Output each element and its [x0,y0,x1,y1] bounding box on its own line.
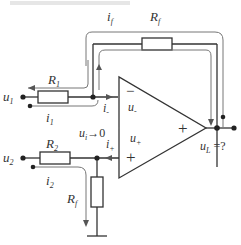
arrow-down-i2 [83,220,89,227]
node-i1-start [28,104,33,109]
label-i-minus: i- [103,101,109,117]
label-uL: uL =? [200,139,226,155]
node-u1 [20,94,25,99]
label-rf-top: Rf [149,9,162,26]
resistor-r2 [40,152,70,164]
resistor-r1 [38,91,68,103]
node-inverting-junction [90,94,95,99]
minus-sign: − [126,83,134,99]
node-output-junction [214,125,220,131]
op-amp-circuit-diagram: if Rf R1 u1 i1 i- − u- ui→0 i+ u+ + + u2… [0,0,241,245]
node-noninverting-junction [94,155,99,160]
label-ui-zero: ui→0 [79,126,105,142]
plus-sign-output: + [178,119,188,138]
node-output-terminal [231,125,236,130]
arrow-left-r1 [28,85,35,91]
resistor-rf-feedback [142,38,172,50]
i2-current-path [33,167,86,224]
label-u2: u2 [3,150,14,167]
arrow-up-feedback [96,64,102,70]
arrow-down-output [208,119,214,126]
label-r2: R2 [45,136,58,153]
node-u2 [20,155,25,160]
label-i2: i2 [46,173,54,190]
label-rf-bottom: Rf [66,191,79,208]
arrow-i-minus [106,94,113,100]
label-i1: i1 [46,110,54,127]
label-r1: R1 [47,72,60,89]
plus-sign-input: + [126,148,136,167]
resistor-rf-ground [91,177,103,207]
label-u1: u1 [3,89,14,106]
node-i2-start [31,165,36,170]
circuit-svg: if Rf R1 u1 i1 i- − u- ui→0 i+ u+ + + u2… [0,0,241,245]
cropped-caption [10,1,130,5]
arrow-i-plus [105,155,112,161]
label-if: if [107,9,115,26]
node-if-end [221,115,226,120]
label-i-plus: i+ [106,137,115,153]
